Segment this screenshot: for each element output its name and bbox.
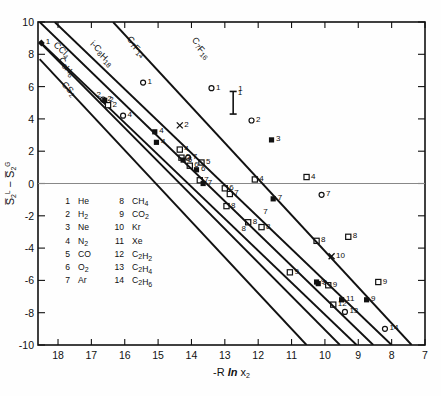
x-tick-label: 10 (319, 349, 331, 361)
legend-index: 8 (119, 196, 124, 206)
legend-index: 12 (114, 249, 124, 259)
data-point-marker (154, 140, 159, 145)
data-point-label: 1 (148, 77, 153, 86)
legend-index: 4 (65, 236, 70, 246)
data-point-marker (342, 309, 347, 314)
legend-species: CH4 (132, 196, 148, 207)
series-line (40, 42, 340, 345)
series-CCl4: 1245679111213 (38, 37, 359, 345)
data-point-marker (259, 225, 264, 230)
legend-species: Ne (78, 222, 89, 232)
data-point-marker (249, 118, 254, 123)
data-point-marker (141, 80, 146, 85)
x-tick-label: 14 (186, 349, 198, 361)
data-point-marker (346, 234, 351, 239)
x-tick-label: 13 (219, 349, 231, 361)
axis-titles: -R ln x2S̅2L − S̅2G (4, 162, 250, 379)
data-point-label: 2 (184, 120, 189, 129)
x-tick-label: 9 (355, 349, 361, 361)
curve-label: C7F16 (188, 35, 214, 61)
x-tick-label: 8 (389, 349, 395, 361)
y-tick-label: -8 (25, 307, 34, 319)
data-point-label: 13 (349, 306, 358, 315)
legend-species: He (78, 196, 89, 206)
legend-index: 6 (65, 262, 70, 272)
data-point-marker (319, 192, 324, 197)
legend-index: 2 (65, 209, 70, 219)
chart-figure: 1817161514131211109871086420-2-4-6-8-104… (0, 0, 441, 396)
data-point-label: 1 (46, 37, 51, 46)
data-point-label: 1 (216, 83, 221, 92)
x-axis-title: -R ln x2 (213, 366, 250, 379)
x-tick-label: 12 (252, 349, 264, 361)
data-point-marker (376, 279, 381, 284)
data-point-marker (121, 113, 126, 118)
legend-index: 14 (114, 275, 124, 285)
data-point-label: 4 (159, 126, 164, 135)
data-point-label: 5 (188, 155, 193, 164)
data-point-label: 5 (206, 157, 211, 166)
data-point-label: 4 (311, 172, 316, 181)
legend-index: 5 (65, 249, 70, 259)
chart-canvas: 1817161514131211109871086420-2-4-6-8-104… (0, 0, 441, 396)
x-tick-label: 7 (422, 349, 428, 361)
x-tick-label: 18 (52, 349, 64, 361)
data-point-marker (316, 281, 321, 286)
legend: 1He8CH42H29CO23Ne10Kr4N211Xe5CO12C2H26O2… (65, 196, 152, 288)
data-point-label: 8 (353, 231, 358, 240)
curve-label: i-C8H18 (86, 39, 116, 69)
legend-species: N2 (78, 236, 88, 247)
y-tick-label: -6 (25, 274, 34, 286)
x-tick-label: 17 (86, 349, 98, 361)
legend-species: C2H2 (132, 249, 152, 262)
y-tick-label: 2 (28, 145, 34, 157)
y-tick-label: 4 (28, 113, 34, 125)
data-point-marker (105, 103, 110, 108)
legend-species: H2 (78, 209, 88, 220)
data-point-label: 8 (321, 235, 326, 244)
y-tick-label: -4 (25, 242, 34, 254)
data-point-label: 7 (326, 189, 331, 198)
floating-label: 7 (263, 207, 268, 216)
data-point-marker (269, 137, 274, 142)
floating-label: 1 (238, 84, 243, 93)
legend-species: Ar (78, 275, 87, 285)
series-line (40, 41, 357, 345)
y-tick-label: 10 (22, 16, 34, 28)
data-point-marker (304, 174, 309, 179)
legend-index: 9 (119, 209, 124, 219)
legend-species: Kr (132, 222, 141, 232)
y-tick-label: 6 (28, 81, 34, 93)
legend-index: 13 (114, 262, 124, 272)
legend-species: O2 (78, 262, 89, 273)
legend-index: 1 (65, 196, 70, 206)
y-tick-label: -10 (19, 339, 34, 351)
legend-index: 3 (65, 222, 70, 232)
y-axis-title: S̅2L − S̅2G (4, 162, 17, 206)
x-tick-label: 11 (286, 349, 297, 361)
legend-species: CO2 (132, 209, 149, 220)
series-C6H6: 2456789 (40, 42, 340, 345)
data-point-label: 2 (113, 100, 118, 109)
data-point-label: 9 (383, 277, 388, 286)
y-tick-label: 0 (28, 178, 34, 190)
legend-species: C2H6 (132, 275, 152, 288)
data-point-marker (209, 86, 214, 91)
x-tick-label: 16 (119, 349, 131, 361)
data-point-label: 3 (276, 134, 281, 143)
data-point-label: 10 (336, 251, 345, 260)
data-point-label: 9 (333, 280, 338, 289)
legend-species: C2H4 (132, 262, 152, 275)
y-tick-label: -2 (25, 210, 34, 222)
data-point-marker (382, 326, 387, 331)
curve-labels: CS2C6H6CCl4i-C8H18C7F14C7F16 (51, 34, 214, 99)
legend-index: 7 (65, 275, 70, 285)
y-tick-label: 8 (28, 48, 34, 60)
data-point-marker (177, 147, 182, 152)
legend-index: 10 (114, 222, 124, 232)
data-point-label: 8 (253, 217, 258, 226)
data-point-marker (287, 270, 292, 275)
floating-label: 2 (96, 90, 101, 99)
data-point-label: 2 (256, 115, 261, 124)
legend-species: CO (78, 249, 91, 259)
